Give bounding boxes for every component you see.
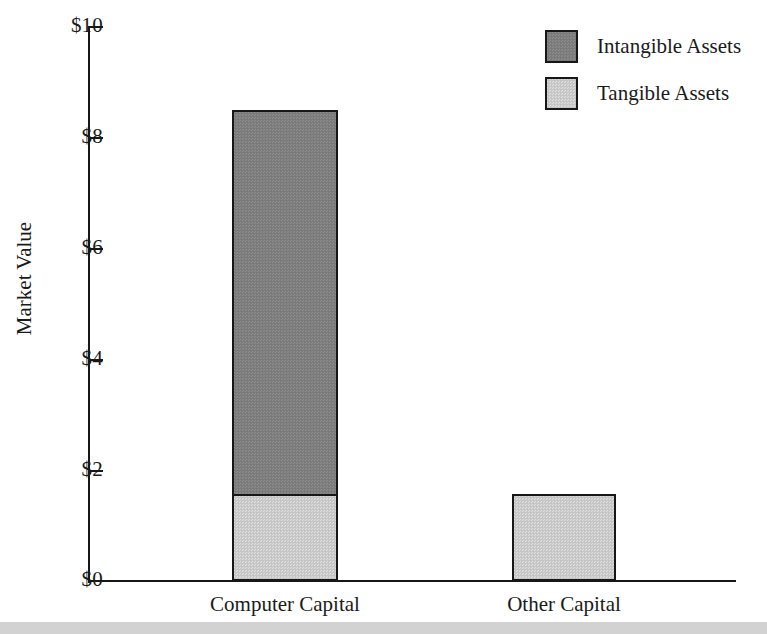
chart-figure: Market Value $10 $8 $6 $4 $2 $0 Computer… [0, 0, 767, 634]
x-category-label-computer-capital: Computer Capital [172, 592, 398, 616]
y-tick-8: $8 [0, 137, 103, 139]
bar-shadow [616, 499, 621, 586]
legend-label-intangible: Intangible Assets [597, 36, 741, 57]
bar-computer-capital[interactable] [232, 110, 338, 581]
bar-other-capital[interactable] [512, 494, 616, 581]
legend-swatch-intangible [545, 30, 578, 63]
y-tick-label-0: $0 [45, 569, 103, 590]
y-axis-line [88, 26, 90, 583]
x-axis-line [88, 580, 736, 582]
bar-segment-tangible[interactable] [512, 494, 616, 581]
x-category-label-other-capital: Other Capital [474, 592, 654, 616]
page-bottom-band [0, 622, 767, 634]
bar-segment-tangible[interactable] [232, 494, 338, 581]
legend: Intangible Assets Tangible Assets [545, 29, 741, 123]
y-tick-mark-6 [90, 248, 103, 250]
y-tick-mark-2 [90, 470, 103, 472]
y-tick-4: $4 [0, 359, 103, 361]
legend-item-intangible-assets[interactable]: Intangible Assets [545, 29, 741, 63]
y-tick-mark-4 [90, 359, 103, 361]
y-tick-0: $0 [0, 580, 103, 582]
bar-segment-intangible[interactable] [232, 110, 338, 496]
y-tick-10: $10 [0, 26, 103, 28]
y-tick-6: $6 [0, 248, 103, 250]
y-tick-2: $2 [0, 470, 103, 472]
y-axis-title: Market Value [14, 179, 35, 379]
legend-item-tangible-assets[interactable]: Tangible Assets [545, 76, 741, 110]
y-tick-mark-8 [90, 137, 103, 139]
y-tick-mark-10 [90, 26, 103, 28]
bar-shadow [338, 115, 343, 586]
legend-swatch-tangible [545, 77, 578, 110]
legend-label-tangible: Tangible Assets [597, 83, 729, 104]
